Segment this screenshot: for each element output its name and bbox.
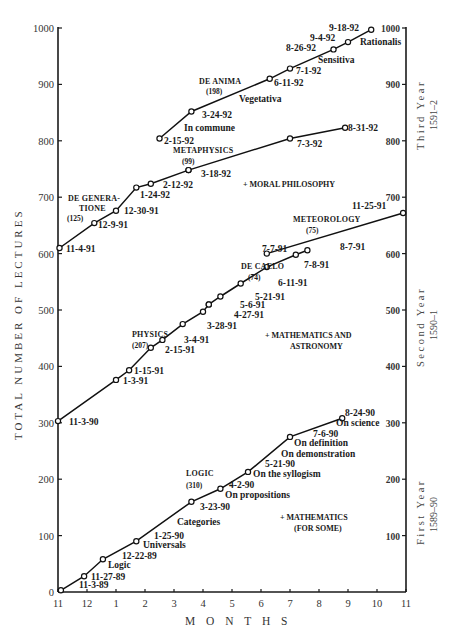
right-tick-label: 500	[386, 306, 401, 316]
data-point-marker	[245, 469, 250, 474]
data-point-marker	[148, 345, 153, 350]
logic-topic-syllogism: On the syllogism	[253, 469, 321, 479]
de-anima-topic-vegetativa: Vegetativa	[239, 94, 282, 104]
physics-date-4: 2-15-91	[165, 345, 195, 355]
data-point-marker	[218, 486, 223, 491]
physics-date-2: 1-3-91	[123, 376, 149, 386]
month-tick-label: 9	[345, 598, 350, 609]
month-tick-label: 7	[287, 598, 292, 609]
meteorology-title: METEOROLOGY	[293, 215, 361, 224]
logic-topic-propositions: On propositions	[225, 490, 290, 500]
month-tick-label: 1	[113, 598, 118, 609]
metaphysics-extra: + MORAL PHILOSOPHY	[243, 180, 335, 189]
logic-topic-categories: Categories	[177, 517, 221, 527]
logic-title: LOGIC	[186, 469, 214, 478]
logic-topic-logic: Logic	[108, 560, 131, 570]
month-tick-label: 4	[200, 598, 206, 609]
logic-topic-definition: On definition	[294, 438, 349, 448]
logic-date-9: 8-24-90	[345, 408, 375, 418]
logic-date-6: 4-2-90	[229, 480, 255, 490]
series-line	[58, 304, 209, 421]
de-caelo-date-1: 5-21-91	[255, 292, 285, 302]
right-tick-label: 400	[386, 362, 401, 372]
x-axis-title: M O N T H S	[185, 615, 292, 627]
de-generatione-date-4: 1-24-92	[140, 190, 170, 200]
physics-extra-2: ASTRONOMY	[290, 342, 343, 351]
meteorology-labels: METEOROLOGY (75) 7-7-91 11-25-91	[262, 201, 387, 254]
metaphysics-title: METAPHYSICS	[173, 146, 234, 155]
month-tick-label: 10	[372, 598, 383, 609]
de-caelo-count: (74)	[248, 273, 261, 282]
data-point-marker	[345, 40, 350, 45]
data-point-marker	[343, 125, 348, 130]
first-year-range: 1589–90	[428, 497, 439, 532]
data-point-marker	[238, 281, 243, 286]
data-point-marker	[148, 181, 153, 186]
data-point-marker	[113, 377, 118, 382]
physics-date-6: 3-28-91	[207, 321, 237, 331]
physics-date-1: 11-3-90	[69, 417, 99, 427]
logic-topic-universals: Universals	[143, 540, 186, 550]
data-point-marker	[134, 185, 139, 190]
logic-date-4: 1-25-90	[154, 531, 184, 541]
month-tick-label: 2	[142, 598, 147, 609]
data-point-marker	[180, 322, 185, 327]
logic-date-5: 3-23-90	[200, 502, 230, 512]
right-tick-label: 700	[386, 193, 401, 203]
right-tick-label: 1000	[381, 24, 400, 34]
data-point-marker	[57, 245, 62, 250]
right-tick-label: 200	[386, 475, 401, 485]
data-point-marker	[113, 208, 118, 213]
data-point-marker	[287, 136, 292, 141]
de-anima-date-4: 7-1-92	[296, 66, 322, 76]
de-anima-topic-commune: In commune	[184, 123, 235, 133]
left-tick-label: 0	[49, 587, 54, 598]
data-point-marker	[293, 252, 298, 257]
data-point-marker	[189, 109, 194, 114]
month-tick-label: 5	[229, 598, 234, 609]
de-anima-date-6: 9-4-92	[310, 33, 336, 43]
data-point-marker	[186, 168, 191, 173]
metaphysics-count: (99)	[182, 157, 195, 166]
left-tick-label: 400	[38, 361, 54, 372]
de-generatione-date-3: 12-30-91	[124, 206, 159, 216]
lecture-progress-chart: 01002003004005006007008009001000 1002003…	[0, 0, 451, 638]
logic-date-2: 11-27-89	[91, 572, 126, 582]
de-anima-date-5: 8-26-92	[286, 43, 316, 53]
data-point-marker	[58, 588, 63, 593]
physics-count: (207)	[132, 341, 149, 350]
de-generatione-count: (125)	[67, 214, 84, 223]
right-tick-label: 800	[386, 137, 401, 147]
meteorology-count: (75)	[306, 226, 319, 235]
data-point-marker	[206, 302, 211, 307]
metaphysics-date-2: 8-31-92	[348, 123, 378, 133]
physics-date-3: 1-15-91	[134, 366, 164, 376]
logic-extra-2: (FOR SOME)	[294, 524, 342, 533]
series-physics	[55, 302, 211, 424]
logic-date-7: 5-21-90	[265, 459, 295, 469]
second-year-label: Second Year	[415, 287, 426, 367]
month-tick-label: 12	[82, 598, 93, 609]
data-point-marker	[305, 248, 310, 253]
data-point-marker	[134, 539, 139, 544]
data-point-marker	[157, 136, 162, 141]
logic-labels: LOGIC (310) 11-3-89 11-27-89 Logic 12-22…	[79, 408, 380, 590]
physics-labels: PHYSICS (207) 11-3-90 1-3-91 1-15-91 2-1…	[69, 300, 352, 427]
month-tick-label: 6	[258, 598, 263, 609]
de-caelo-date-3: 7-8-91	[304, 260, 330, 270]
data-point-marker	[287, 66, 292, 71]
left-tick-label: 200	[38, 474, 54, 485]
data-point-marker	[401, 210, 406, 215]
de-caelo-date-2: 6-11-91	[278, 278, 308, 288]
data-point-marker	[267, 76, 272, 81]
left-tick-label: 900	[38, 79, 54, 90]
de-anima-topic-sensitiva: Sensitiva	[318, 55, 355, 65]
third-year-range: 1591–2	[428, 100, 439, 130]
de-caelo-title: DE CAELO	[241, 262, 284, 271]
physics-date-7: 4-27-91	[234, 310, 264, 320]
right-tick-label: 600	[386, 250, 401, 260]
logic-topic-demonstration: On demonstration	[281, 449, 356, 459]
left-tick-label: 300	[38, 418, 54, 429]
data-point-marker	[369, 27, 374, 32]
meteorology-date-1: 7-7-91	[262, 244, 288, 254]
